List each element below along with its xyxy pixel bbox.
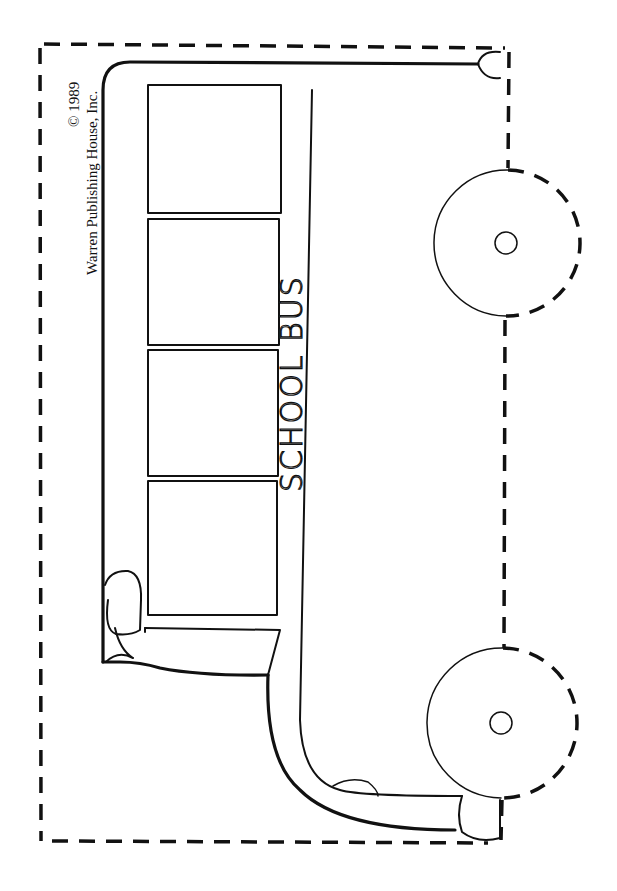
copyright-publisher: Warren Publishing House, Inc. (84, 91, 100, 275)
bus-hood-curve (103, 662, 268, 675)
copyright-block: © 1989 Warren Publishing House, Inc. (66, 82, 100, 275)
coloring-page: © 1989 Warren Publishing House, Inc. SCH… (0, 0, 617, 891)
rear-wheel-hub (490, 712, 512, 734)
cut-line-top (44, 44, 505, 48)
bus-label: SCHOOL BUS (274, 275, 309, 492)
cut-line-left (40, 48, 41, 841)
cut-line-right-bottom (501, 800, 502, 840)
front-wheel-rim (434, 170, 508, 316)
window-1 (148, 85, 281, 213)
headlight-rear (105, 571, 141, 635)
windows (148, 85, 281, 615)
front-wheel (434, 170, 517, 316)
bus-front-curve (268, 675, 455, 830)
bus-label-group: SCHOOL BUS (274, 275, 309, 492)
window-2 (148, 219, 279, 345)
rear-wheel-rim (427, 648, 503, 798)
tail-light (459, 796, 500, 840)
cut-line-bottom (52, 841, 488, 843)
bus-stripe (300, 90, 462, 796)
copyright-year: © 1989 (66, 82, 82, 127)
headlight-front (478, 52, 500, 78)
front-wheel-hub (495, 232, 517, 254)
cut-line-right-middle (504, 320, 505, 648)
cut-line-right-top (508, 52, 509, 168)
rear-wheel (427, 648, 512, 798)
window-4 (148, 481, 277, 615)
window-3 (148, 350, 278, 476)
